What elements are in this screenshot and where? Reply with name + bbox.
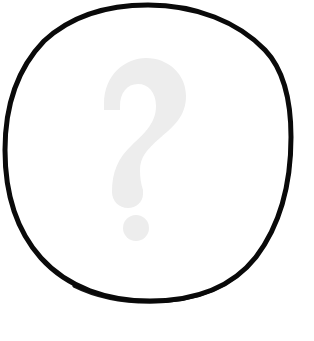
question-mark-dot (123, 215, 149, 241)
placeholder-image-canvas: Question mark inside a circle (0, 0, 314, 341)
unknown-placeholder-figure (0, 0, 314, 341)
